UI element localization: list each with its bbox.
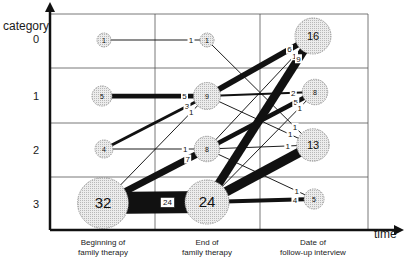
- edge-label: 2: [291, 89, 296, 98]
- x-tick-beginning-line1: Beginning of: [48, 238, 158, 248]
- node-b2: 4: [95, 140, 113, 158]
- node-f1: 8: [302, 79, 327, 104]
- x-axis-label: time: [374, 227, 397, 241]
- node-count: 24: [199, 193, 216, 210]
- x-tick-end-line1: End of: [152, 238, 262, 248]
- node-f2: 13: [297, 129, 329, 161]
- x-tick-followup-line2: follow-up interview: [258, 248, 368, 258]
- node-b3: 32: [78, 178, 129, 229]
- node-f3: 5: [304, 189, 324, 209]
- edge-label: 9: [296, 55, 301, 64]
- node-e0: 1: [200, 33, 214, 47]
- x-tick-end-line2: family therapy: [152, 248, 262, 258]
- y-tick-0: 0: [26, 33, 46, 45]
- x-tick-beginning: Beginning of family therapy: [48, 238, 158, 258]
- edge-label: 1: [189, 36, 194, 45]
- edge-label: 1: [286, 142, 291, 151]
- node-count: 32: [95, 194, 112, 211]
- node-count: 4: [102, 146, 106, 153]
- edge-label: 5: [182, 92, 187, 101]
- edge-label: 1: [288, 130, 293, 139]
- node-count: 5: [312, 196, 316, 203]
- x-tick-followup-line1: Date of: [258, 238, 368, 248]
- node-count: 9: [205, 93, 209, 100]
- edge-label: 24: [163, 198, 172, 207]
- edge-label: 7: [185, 155, 190, 164]
- node-b0: 1: [97, 33, 111, 47]
- edge-label: 10: [286, 153, 295, 162]
- edge-label: 1: [298, 104, 303, 113]
- node-f0: 16: [295, 18, 331, 54]
- y-tick-3: 3: [26, 198, 46, 210]
- node-e2: 8: [194, 136, 219, 161]
- flow-diagram-canvas: 153117241621151191104 1543219824168135: [0, 0, 406, 260]
- transition-diagram: 153117241621151191104 1543219824168135 c…: [0, 0, 406, 260]
- node-count: 1: [102, 37, 106, 44]
- node-count: 8: [205, 146, 209, 153]
- x-tick-followup: Date of follow-up interview: [258, 238, 368, 258]
- node-count: 1: [205, 37, 209, 44]
- y-tick-1: 1: [26, 90, 46, 102]
- node-count: 16: [307, 30, 319, 42]
- node-count: 5: [100, 93, 104, 100]
- edge-e1-f1: [207, 92, 315, 96]
- x-tick-end: End of family therapy: [152, 238, 262, 258]
- node-e1: 9: [194, 83, 221, 110]
- y-axis-label: category: [3, 19, 49, 33]
- edge-label: 4: [293, 196, 298, 205]
- edge-label: 1: [189, 108, 194, 117]
- x-tick-beginning-line2: family therapy: [48, 248, 158, 258]
- node-b1: 5: [92, 86, 112, 106]
- y-tick-2: 2: [26, 144, 46, 156]
- edges-layer: [102, 36, 315, 203]
- node-count: 13: [307, 139, 319, 151]
- y-axis-arrow-icon: [45, 2, 55, 12]
- edge-label: 1: [183, 145, 188, 154]
- edge-b2-e1: [104, 96, 207, 149]
- node-count: 8: [313, 89, 317, 96]
- node-e3: 24: [185, 180, 229, 224]
